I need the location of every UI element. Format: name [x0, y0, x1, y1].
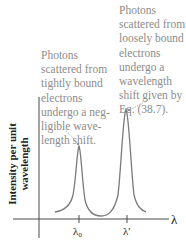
tick-label-lambda0: λ₀	[73, 225, 82, 237]
tick-label-lambda-prime: λ′	[123, 225, 131, 237]
annotation-line: Photons	[41, 48, 110, 62]
annotation-loosely-bound: Photons scattered from loosely bound ele…	[119, 3, 185, 117]
y-axis-label-line2: wavelength	[18, 110, 30, 218]
annotation-line: undergo a	[119, 60, 185, 74]
annotation-line: wavelength	[119, 74, 185, 88]
annotation-line: Eq. (38.7).	[119, 102, 185, 116]
annotation-line: loosely bound	[119, 31, 185, 45]
annotation-line: length shift.	[41, 133, 110, 147]
annotation-line: Photons	[119, 3, 185, 17]
annotation-line: tightly bound	[41, 76, 110, 90]
y-axis-label-line1: Intensity per unit	[6, 110, 18, 218]
annotation-line: electrons	[119, 46, 185, 60]
y-axis-label: Intensity per unit wavelength	[6, 110, 30, 218]
annotation-line: shift given by	[119, 88, 185, 102]
annotation-line: scattered from	[119, 17, 185, 31]
annotation-tightly-bound: Photons scattered from tightly bound ele…	[41, 48, 110, 147]
annotation-line: scattered from	[41, 62, 110, 76]
annotation-line: ligible wave-	[41, 119, 110, 133]
annotation-line: electrons	[41, 91, 110, 105]
annotation-line: undergo a neg-	[41, 105, 110, 119]
x-axis-label: λ	[171, 212, 177, 228]
